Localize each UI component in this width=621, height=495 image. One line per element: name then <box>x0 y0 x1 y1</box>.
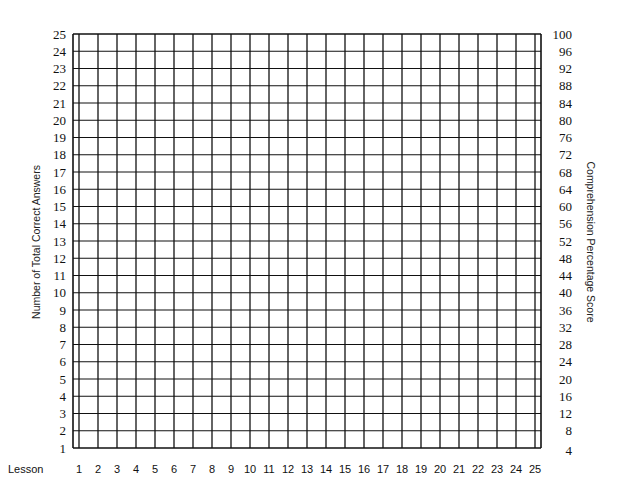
lesson-tick-label: 7 <box>190 463 196 475</box>
right-axis-title: Comprehension Percentage Score <box>585 161 597 322</box>
chart-grid <box>73 34 541 448</box>
lesson-tick-label: 9 <box>228 463 234 475</box>
right-tick-label: 12 <box>559 406 572 421</box>
left-tick-label: 9 <box>60 303 67 318</box>
lesson-tick-label: 2 <box>95 463 101 475</box>
left-tick-label: 14 <box>53 216 67 231</box>
right-tick-label: 56 <box>559 216 573 231</box>
lesson-tick-label: 1 <box>76 463 82 475</box>
left-tick-label: 19 <box>53 130 66 145</box>
right-tick-label: 72 <box>559 147 572 162</box>
right-tick-label: 84 <box>559 96 573 111</box>
lesson-tick-label: 12 <box>282 463 294 475</box>
left-tick-label: 1 <box>60 441 67 456</box>
left-tick-label: 25 <box>53 27 66 42</box>
lesson-tick-label: 20 <box>434 463 446 475</box>
lesson-axis-ticks: 1234567891011121314151617181920212223242… <box>76 463 541 475</box>
lesson-tick-label: 3 <box>114 463 120 475</box>
left-tick-label: 22 <box>53 78 66 93</box>
left-tick-label: 7 <box>60 337 67 352</box>
left-tick-label: 5 <box>60 372 67 387</box>
lesson-tick-label: 22 <box>472 463 484 475</box>
right-tick-label: 100 <box>553 27 573 42</box>
lesson-tick-label: 13 <box>301 463 313 475</box>
lesson-tick-label: 23 <box>491 463 503 475</box>
left-tick-label: 13 <box>53 234 66 249</box>
left-tick-label: 15 <box>53 199 66 214</box>
left-tick-label: 16 <box>53 182 67 197</box>
left-tick-label: 10 <box>53 285 66 300</box>
left-tick-label: 4 <box>60 389 67 404</box>
right-tick-label: 16 <box>559 389 573 404</box>
lesson-label: Lesson <box>8 463 43 475</box>
right-tick-label: 80 <box>559 113 572 128</box>
lesson-tick-label: 10 <box>244 463 256 475</box>
lesson-tick-label: 16 <box>358 463 370 475</box>
right-axis-ticks: 1009692888480767268646056524844403632282… <box>553 27 573 458</box>
right-tick-label: 32 <box>559 320 572 335</box>
lesson-tick-label: 15 <box>339 463 351 475</box>
right-tick-label: 60 <box>559 199 572 214</box>
lesson-tick-label: 17 <box>377 463 389 475</box>
lesson-tick-label: 4 <box>133 463 139 475</box>
lesson-tick-label: 11 <box>263 463 274 475</box>
left-tick-label: 21 <box>53 96 66 111</box>
lesson-tick-label: 5 <box>152 463 158 475</box>
right-tick-label: 28 <box>559 337 572 352</box>
lesson-tick-label: 6 <box>171 463 177 475</box>
right-tick-label: 48 <box>559 251 572 266</box>
right-tick-label: 52 <box>559 234 572 249</box>
lesson-tick-label: 25 <box>529 463 541 475</box>
left-tick-label: 24 <box>53 44 67 59</box>
right-tick-label: 68 <box>559 165 572 180</box>
right-tick-label: 40 <box>559 285 572 300</box>
right-tick-label: 8 <box>566 423 573 438</box>
left-tick-label: 17 <box>53 165 67 180</box>
left-tick-label: 18 <box>53 147 66 162</box>
right-tick-label: 88 <box>559 78 572 93</box>
left-tick-label: 2 <box>60 423 67 438</box>
left-axis-ticks: 2524232221201918171615141312111098765432… <box>53 27 67 456</box>
lesson-tick-label: 8 <box>209 463 215 475</box>
right-tick-label: 4 <box>566 443 573 458</box>
progress-chart: 2524232221201918171615141312111098765432… <box>0 0 621 495</box>
lesson-tick-label: 19 <box>415 463 427 475</box>
right-tick-label: 76 <box>559 130 573 145</box>
left-tick-label: 12 <box>53 251 66 266</box>
lesson-tick-label: 18 <box>396 463 408 475</box>
left-tick-label: 6 <box>60 354 67 369</box>
lesson-tick-label: 24 <box>510 463 522 475</box>
right-tick-label: 92 <box>559 61 572 76</box>
left-tick-label: 23 <box>53 61 66 76</box>
right-tick-label: 44 <box>559 268 573 283</box>
right-tick-label: 20 <box>559 372 572 387</box>
right-tick-label: 24 <box>559 354 573 369</box>
left-tick-label: 8 <box>60 320 67 335</box>
left-tick-label: 3 <box>60 406 67 421</box>
right-tick-label: 36 <box>559 303 573 318</box>
right-tick-label: 64 <box>559 182 573 197</box>
lesson-tick-label: 14 <box>320 463 332 475</box>
right-tick-label: 96 <box>559 44 573 59</box>
lesson-tick-label: 21 <box>453 463 465 475</box>
left-tick-label: 20 <box>53 113 66 128</box>
left-tick-label: 11 <box>53 268 66 283</box>
left-axis-title: Number of Total Correct Answers <box>30 165 42 319</box>
